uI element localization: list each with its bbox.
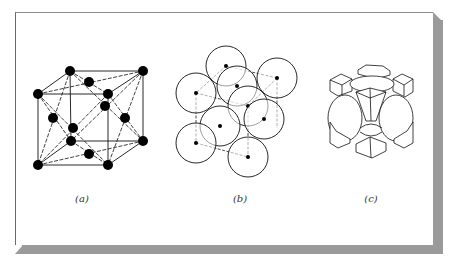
panel-b-label: (b) xyxy=(233,193,247,204)
atom-node xyxy=(33,160,43,170)
atom-center-dot xyxy=(224,64,228,68)
atom-node xyxy=(84,149,94,159)
figure-diagram xyxy=(0,0,463,256)
panel-b-fcc-circles xyxy=(176,46,297,177)
atom-center-dot xyxy=(194,91,198,95)
atom-node xyxy=(103,89,113,99)
atom-node xyxy=(138,66,148,76)
atom-center-dot xyxy=(235,84,239,88)
atom-node xyxy=(84,77,94,87)
atom-center-dot xyxy=(194,141,198,145)
atom-node xyxy=(138,136,148,146)
atom-node xyxy=(33,89,43,99)
panel-a-atoms xyxy=(33,66,148,170)
panel-c-label: (c) xyxy=(364,193,377,204)
atom-center-dot xyxy=(275,76,279,80)
atom-center-dot xyxy=(262,117,266,121)
atom-node xyxy=(68,123,78,133)
atom-node xyxy=(48,113,58,123)
atom-node xyxy=(120,113,130,123)
panel-a-label: (a) xyxy=(75,193,89,204)
atom-node xyxy=(66,136,76,146)
atom-center-dot xyxy=(218,124,222,128)
atom-node xyxy=(65,66,75,76)
atom-node xyxy=(103,160,113,170)
atom-center-dot xyxy=(246,155,250,159)
atom-node xyxy=(100,101,110,111)
panel-c-fcc-truncated xyxy=(328,65,413,158)
